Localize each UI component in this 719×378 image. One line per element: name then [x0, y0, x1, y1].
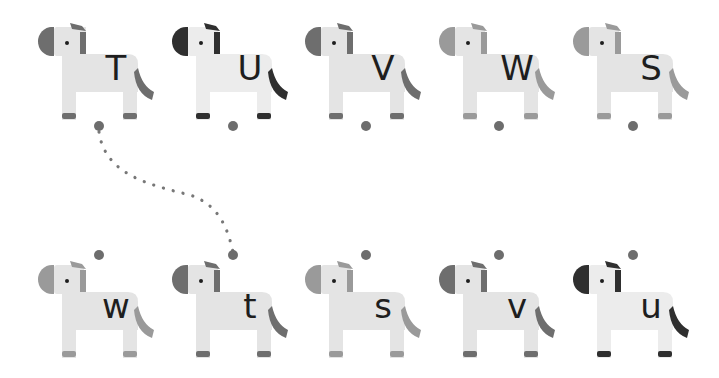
letter-label: t: [220, 286, 280, 326]
horse-card-top-5[interactable]: S: [571, 18, 701, 128]
connector-dot-top-4[interactable]: [494, 121, 504, 131]
connector-dot-top-2[interactable]: [228, 121, 238, 131]
letter-label: U: [220, 48, 280, 88]
letter-label: T: [86, 48, 146, 88]
connector-dot-top-1[interactable]: [94, 121, 104, 131]
horse-card-bottom-2[interactable]: t: [170, 256, 300, 366]
horse-card-top-4[interactable]: W: [437, 18, 567, 128]
horse-card-bottom-4[interactable]: v: [437, 256, 567, 366]
letter-label: s: [353, 286, 413, 326]
letter-label: W: [487, 48, 547, 88]
letter-label: v: [487, 286, 547, 326]
connector-dot-top-3[interactable]: [361, 121, 371, 131]
connector-dot-top-5[interactable]: [628, 121, 638, 131]
horse-card-top-1[interactable]: T: [36, 18, 166, 128]
horse-card-bottom-3[interactable]: s: [303, 256, 433, 366]
horse-card-bottom-1[interactable]: w: [36, 256, 166, 366]
matching-board: T U: [0, 0, 719, 378]
horse-card-bottom-5[interactable]: u: [571, 256, 701, 366]
letter-label: u: [621, 286, 681, 326]
horse-card-top-2[interactable]: U: [170, 18, 300, 128]
horse-card-top-3[interactable]: V: [303, 18, 433, 128]
letter-label: S: [621, 48, 681, 88]
letter-label: w: [86, 286, 146, 326]
letter-label: V: [353, 48, 413, 88]
